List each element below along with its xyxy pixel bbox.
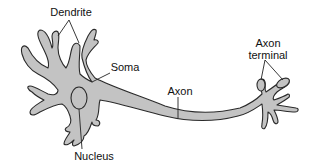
neuron-diagram: [0, 0, 310, 166]
nucleus-shape: [71, 87, 87, 109]
label-dendrite: Dendrite: [46, 6, 96, 18]
label-axon-terminal-line2: terminal: [246, 49, 290, 61]
axon-terminal-leader-left: [261, 60, 265, 80]
label-axon-terminal: Axon terminal: [246, 37, 290, 61]
label-soma: Soma: [108, 61, 142, 73]
label-nucleus: Nucleus: [70, 150, 118, 162]
axon-terminal-bulb-left: [257, 79, 265, 91]
label-axon: Axon: [162, 85, 198, 97]
dendrite-leader-right: [69, 20, 79, 43]
label-axon-terminal-line1: Axon: [246, 37, 290, 49]
dendrite-leader-left: [58, 20, 69, 36]
axon-terminal-leader-right: [265, 60, 283, 80]
